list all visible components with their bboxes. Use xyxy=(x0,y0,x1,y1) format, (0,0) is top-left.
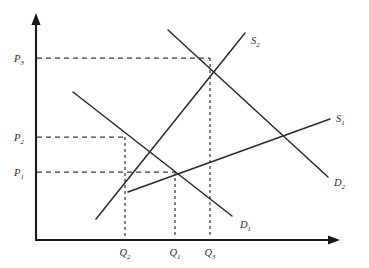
diagram-canvas: P3 P2 P1 Q2 Q1 Q3 S2 S1 D2 D1 xyxy=(0,0,369,268)
quantity-label-q2: Q2 xyxy=(119,247,131,261)
supply-demand-figure: P3 P2 P1 Q2 Q1 Q3 S2 S1 D2 D1 xyxy=(0,0,369,268)
quantity-label-q3: Q3 xyxy=(204,247,216,261)
supply-curve-s2 xyxy=(96,33,245,219)
quantity-guide-lines xyxy=(125,58,210,236)
price-axis-labels: P3 P2 P1 xyxy=(13,53,24,181)
price-guide-lines xyxy=(37,58,210,172)
x-axis-arrow-icon xyxy=(328,235,340,244)
curve-label-d2: D2 xyxy=(333,177,346,191)
demand-curve-d2 xyxy=(168,30,328,177)
curve-label-s1: S1 xyxy=(336,113,345,127)
curve-labels: S2 S1 D2 D1 xyxy=(239,35,346,233)
price-label-p3: P3 xyxy=(13,53,24,67)
quantity-axis-labels: Q2 Q1 Q3 xyxy=(119,247,216,261)
demand-curve-d1 xyxy=(73,92,232,216)
curve-label-d1: D1 xyxy=(239,219,251,233)
axes xyxy=(31,13,340,245)
price-label-p2: P2 xyxy=(13,132,24,146)
supply-curve-s1 xyxy=(128,119,330,192)
y-axis-arrow-icon xyxy=(31,13,40,25)
quantity-label-q1: Q1 xyxy=(169,247,180,261)
price-label-p1: P1 xyxy=(13,167,24,181)
curve-label-s2: S2 xyxy=(251,35,260,49)
